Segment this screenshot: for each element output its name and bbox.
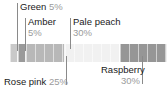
callout-pale-peach-percent: 30% [73,27,121,38]
segment-stripes [120,44,167,62]
leader-line-amber [25,18,26,51]
callout-amber: Amber 5% [28,16,56,38]
callout-green: Green 5% [20,1,63,12]
segment-stripes [65,44,120,62]
callout-raspberry-percent: 30% [101,75,140,86]
callout-rose-pink-label: Rose pink [4,76,46,87]
stacked-bar [10,44,167,62]
bar-segment-raspberry[interactable] [120,44,167,62]
bar-segment-pale-peach[interactable] [65,44,120,62]
bar-segment-rose-pink[interactable] [26,44,65,62]
callout-amber-percent: 5% [28,27,56,38]
callout-green-label: Green [20,1,46,12]
callout-raspberry: Raspberry 30% [101,64,140,86]
callout-pale-peach: Pale peach 30% [73,16,121,38]
callout-raspberry-label: Raspberry [101,64,145,75]
leader-line-pale-peach [70,18,71,49]
callout-amber-label: Amber [28,16,56,27]
callout-green-percent: 5% [49,1,63,12]
callout-rose-pink-percent: 25% [49,76,68,87]
chart-root: Green 5% Amber 5% Pale peach 30% Rose pi… [0,0,167,98]
segment-stripes [26,44,65,62]
callout-rose-pink: Rose pink 25% [4,76,68,87]
leader-line-green [17,3,18,51]
callout-pale-peach-label: Pale peach [73,16,121,27]
